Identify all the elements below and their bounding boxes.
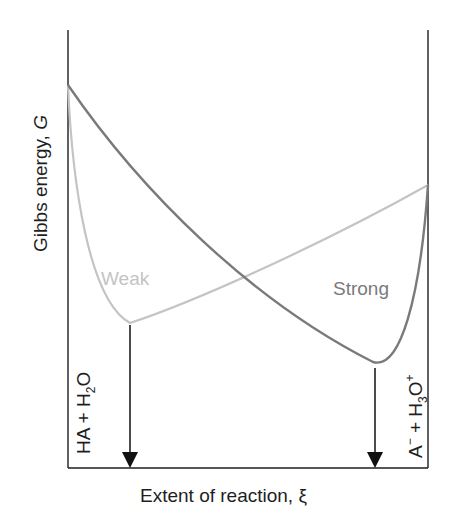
strong-curve: [68, 85, 428, 363]
weak-label: Weak: [101, 268, 150, 289]
weak-equilibrium-arrow: [122, 325, 138, 468]
products-label: A− + H3O+: [403, 374, 430, 458]
y-axis-label: Gibbs energy, G: [30, 115, 51, 252]
strong-label: Strong: [333, 278, 389, 299]
gibbs-energy-diagram: Weak Strong Gibbs energy, G Extent of re…: [0, 0, 454, 526]
strong-equilibrium-arrow: [367, 368, 383, 468]
x-axis-label: Extent of reaction, ξ: [140, 485, 307, 506]
reactants-label: HA + H2O: [73, 372, 98, 454]
